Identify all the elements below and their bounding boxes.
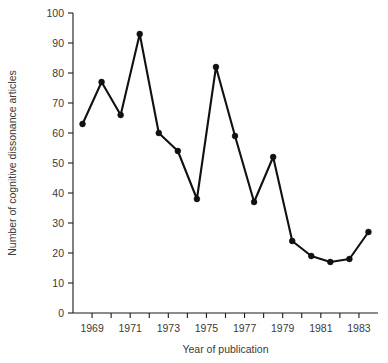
y-axis-tick-label: 50 — [52, 157, 64, 169]
x-axis-tick-label: 1975 — [195, 322, 219, 334]
x-axis-tick-label: 1983 — [347, 322, 371, 334]
data-point-marker — [251, 199, 257, 205]
data-point-marker — [194, 196, 200, 202]
data-series-line — [83, 34, 369, 262]
x-axis-tick-label: 1979 — [271, 322, 295, 334]
data-point-marker — [366, 229, 372, 235]
data-point-marker — [80, 121, 86, 127]
chart-plot-area: 0102030405060708090100196919711973197519… — [0, 0, 388, 363]
data-point-marker — [232, 133, 238, 139]
y-axis-tick-label: 100 — [46, 7, 64, 19]
y-axis-tick-label: 60 — [52, 127, 64, 139]
y-axis-tick-label: 90 — [52, 37, 64, 49]
data-point-marker — [156, 130, 162, 136]
x-axis-title: Year of publication — [182, 343, 268, 355]
data-point-marker — [213, 64, 219, 70]
line-chart-figure: 0102030405060708090100196919711973197519… — [0, 0, 388, 363]
data-point-marker — [137, 31, 143, 37]
data-point-marker — [99, 79, 105, 85]
data-point-marker — [270, 154, 276, 160]
y-axis-tick-label: 30 — [52, 217, 64, 229]
y-axis-tick-label: 20 — [52, 247, 64, 259]
x-axis-tick-label: 1971 — [119, 322, 143, 334]
data-point-marker — [308, 253, 314, 259]
data-point-marker — [327, 259, 333, 265]
y-axis-title: Number of cognitive dissonance articles — [6, 70, 18, 256]
y-axis-tick-label: 40 — [52, 187, 64, 199]
y-axis-tick-label: 0 — [58, 307, 64, 319]
data-point-marker — [175, 148, 181, 154]
data-point-marker — [347, 256, 353, 262]
x-axis-tick-label: 1977 — [233, 322, 257, 334]
x-axis-tick-label: 1981 — [309, 322, 333, 334]
x-axis-tick-label: 1969 — [80, 322, 104, 334]
y-axis-tick-label: 70 — [52, 97, 64, 109]
y-axis-tick-label: 80 — [52, 67, 64, 79]
y-axis-tick-label: 10 — [52, 277, 64, 289]
x-axis-tick-label: 1973 — [157, 322, 181, 334]
data-point-marker — [289, 238, 295, 244]
data-point-marker — [118, 112, 124, 118]
